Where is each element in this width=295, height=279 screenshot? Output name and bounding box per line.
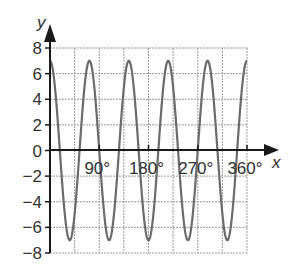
x-axis-label: x xyxy=(271,153,281,172)
x-tick-label: 270° xyxy=(178,159,213,178)
y-tick-label: −6 xyxy=(23,218,42,237)
x-tick-label: 90° xyxy=(84,159,110,178)
y-axis-label: y xyxy=(36,13,47,32)
y-tick-label: −8 xyxy=(23,244,42,263)
y-tick-label: 2 xyxy=(33,116,42,135)
y-tick-label: 6 xyxy=(33,65,42,84)
y-tick-label: 8 xyxy=(33,39,42,58)
y-tick-label: 4 xyxy=(33,90,42,109)
y-axis-arrow-icon xyxy=(44,24,56,42)
y-tick-label: −4 xyxy=(23,193,42,212)
x-tick-label: 360° xyxy=(227,159,262,178)
y-tick-label: −2 xyxy=(23,167,42,186)
x-tick-label: 180° xyxy=(129,159,164,178)
chart: y x 86420−2−4−6−8 90°180°270°360° xyxy=(0,0,295,279)
y-tick-labels: 86420−2−4−6−8 xyxy=(23,39,50,263)
y-tick-label: 0 xyxy=(33,142,42,161)
